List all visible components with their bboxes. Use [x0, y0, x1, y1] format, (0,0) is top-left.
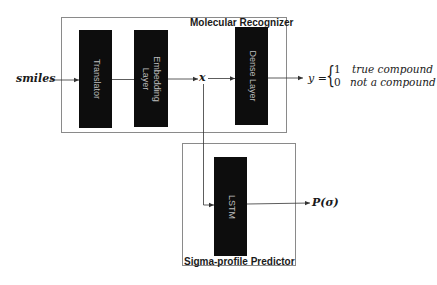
- lstm-block: LSTM: [214, 157, 247, 256]
- diagram-canvas: Molecular Recognizer Sigma-profile Predi…: [0, 0, 437, 285]
- translator-label: Translator: [90, 59, 101, 99]
- y-output-label: y =: [308, 73, 327, 84]
- y-case-false: 0not a compound: [334, 77, 436, 88]
- p-sigma-output-label: P(σ): [312, 197, 339, 208]
- y-case-true: 1true compound: [334, 64, 433, 75]
- dense-layer-label: Dense Layer: [246, 50, 257, 101]
- lstm-label: LSTM: [225, 194, 236, 218]
- y-case-true-description: true compound: [352, 63, 433, 75]
- sigma-profile-predictor-label: Sigma-profile Predictor: [184, 257, 295, 267]
- x-embedding-label: x: [199, 72, 206, 83]
- y-case-false-value: 0: [334, 77, 350, 88]
- dense-layer-block: Dense Layer: [235, 27, 268, 125]
- translator-block: Translator: [79, 30, 112, 128]
- embedding-layer-label: Embedding Layer: [140, 56, 162, 102]
- y-case-false-description: not a compound: [350, 76, 436, 88]
- embedding-layer-block: Embedding Layer: [134, 30, 168, 127]
- y-case-true-value: 1: [334, 64, 352, 75]
- smiles-input-label: smiles: [16, 73, 55, 84]
